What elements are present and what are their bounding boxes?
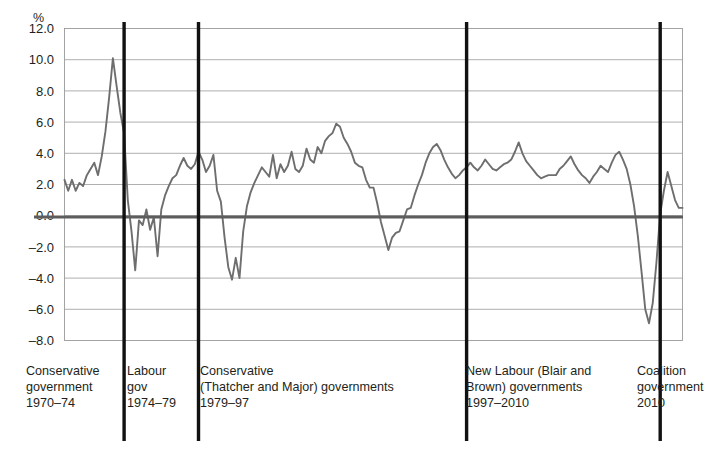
y-axis-tick-label: 6.0 bbox=[36, 115, 54, 130]
gridlines bbox=[65, 60, 683, 310]
y-axis-tick-label: 2.0 bbox=[36, 177, 54, 192]
period-label-labour-1974: Labour gov 1974–79 bbox=[127, 363, 189, 412]
y-axis-unit-label: % bbox=[33, 11, 44, 25]
y-axis-tick-label: –2.0 bbox=[29, 240, 54, 255]
y-axis-tick-label: 4.0 bbox=[36, 146, 54, 161]
y-axis-tick-labels: 12.010.08.06.04.02.00.0–2.0–4.0–6.0–8.0 bbox=[29, 21, 54, 348]
period-label-conservative-1979: Conservative (Thatcher and Major) govern… bbox=[200, 363, 442, 412]
y-axis-tick-label: 8.0 bbox=[36, 84, 54, 99]
y-axis-tick-label: –6.0 bbox=[29, 302, 54, 317]
period-label-new-labour-1997: New Labour (Blair and Brown) governments… bbox=[466, 363, 626, 412]
period-label-conservative-1970: Conservative government 1970–74 bbox=[26, 363, 118, 412]
y-axis-tick-label: –4.0 bbox=[29, 271, 54, 286]
period-label-coalition-2010: Coalition government 2010 bbox=[637, 363, 713, 412]
y-axis-tick-label: 10.0 bbox=[29, 52, 54, 67]
y-axis-tick-label: –8.0 bbox=[29, 333, 54, 348]
gdp-growth-line bbox=[65, 58, 683, 323]
